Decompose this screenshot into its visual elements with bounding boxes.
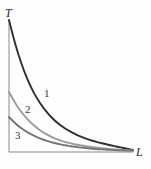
x-axis-label: L [136, 146, 143, 158]
curve-2 [9, 92, 133, 150]
curve-1 [9, 20, 133, 150]
figure-container: T L 1 2 3 [0, 0, 151, 169]
curve-label-3: 3 [15, 130, 21, 141]
curve-label-1: 1 [44, 88, 50, 99]
y-axis-label: T [5, 7, 12, 19]
plot-canvas [0, 0, 151, 169]
curve-label-2: 2 [25, 104, 31, 115]
